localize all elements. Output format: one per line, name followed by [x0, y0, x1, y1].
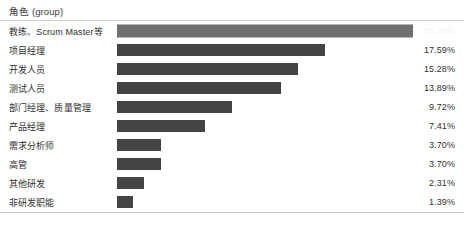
bar-row-label: 其他研发 — [9, 177, 45, 190]
bar-row-label: 项目经理 — [9, 43, 45, 56]
bar[interactable] — [117, 44, 325, 56]
bar-row[interactable]: 产品经理7.41% — [0, 117, 464, 136]
bar-row-value: 3.70% — [429, 159, 455, 169]
bar-row[interactable]: 测试人员13.89% — [0, 78, 464, 97]
bar-row[interactable]: 项目经理17.59% — [0, 40, 464, 59]
bar[interactable] — [117, 139, 161, 151]
bar-row[interactable]: 教练、Scrum Master等25.00% — [0, 21, 464, 40]
bar[interactable] — [117, 101, 232, 113]
bar-row-value: 15.28% — [424, 64, 455, 74]
bar-highlighted[interactable] — [117, 24, 413, 37]
bar[interactable] — [117, 63, 298, 75]
bar-row[interactable]: 部门经理、质量管理9.72% — [0, 97, 464, 116]
bar-row-value: 13.89% — [424, 83, 455, 93]
bar-row-label: 产品经理 — [9, 120, 45, 133]
bar-row-label: 需求分析师 — [9, 139, 55, 152]
bar[interactable] — [117, 82, 281, 94]
bar[interactable] — [117, 120, 205, 132]
bar-row-value: 3.70% — [429, 140, 455, 150]
bar-row-label: 高管 — [9, 158, 27, 171]
bar-rows-container: 教练、Scrum Master等25.00%项目经理17.59%开发人员15.2… — [0, 21, 464, 212]
chart-header-title: 角色 (group) — [9, 4, 63, 18]
bar-row[interactable]: 高管3.70% — [0, 155, 464, 174]
bar-row-label: 开发人员 — [9, 62, 45, 75]
bar[interactable] — [117, 196, 133, 208]
bar-row-value: 1.39% — [429, 197, 455, 207]
bar-row[interactable]: 其他研发2.31% — [0, 174, 464, 193]
bar-row-value: 9.72% — [429, 102, 455, 112]
bar-row[interactable]: 开发人员15.28% — [0, 59, 464, 78]
bar-row-label: 非研发职能 — [9, 196, 55, 209]
bar-row-label: 部门经理、质量管理 — [9, 100, 91, 113]
chart-bottom-divider — [0, 212, 464, 213]
bar-chart-widget: 角色 (group) 教练、Scrum Master等25.00%项目经理17.… — [0, 0, 464, 233]
bar-row[interactable]: 非研发职能1.39% — [0, 193, 464, 212]
bar-row-label: 测试人员 — [9, 81, 45, 94]
bar[interactable] — [117, 177, 144, 189]
chart-header: 角色 (group) — [0, 0, 464, 21]
bar-row-value: 17.59% — [424, 45, 455, 55]
bar-row-value: 7.41% — [429, 121, 455, 131]
bar-row-label: 教练、Scrum Master等 — [9, 24, 103, 37]
bar-row-value: 2.31% — [429, 178, 455, 188]
bar[interactable] — [117, 158, 161, 170]
bar-row-value: 25.00% — [377, 26, 455, 36]
bar-row[interactable]: 需求分析师3.70% — [0, 136, 464, 155]
